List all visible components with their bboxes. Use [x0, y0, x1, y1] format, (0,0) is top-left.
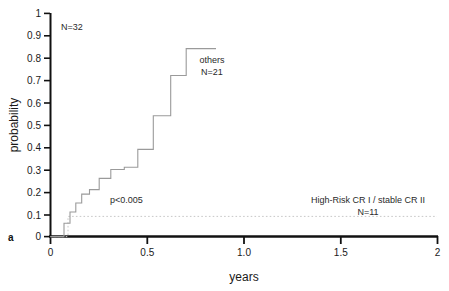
- y-axis-tick-labels: 1 0.9 0.8 0.7 0.6 0.5 0.4 0.3 0.2 0.1 0: [27, 8, 41, 242]
- y-tick-label-0.6: 0.6: [27, 98, 41, 109]
- figure-panel-a: 1 0.9 0.8 0.7 0.6 0.5 0.4 0.3 0.2 0.1 0 …: [0, 0, 449, 291]
- y-tick-label-0: 0: [35, 231, 41, 242]
- y-axis-ticks: [44, 13, 50, 236]
- y-tick-label-0.1: 0.1: [27, 210, 41, 221]
- x-tick-label-1.0: 1.0: [237, 247, 251, 258]
- x-tick-label-1.5: 1.5: [334, 247, 348, 258]
- x-tick-label-0.5: 0.5: [140, 247, 154, 258]
- y-tick-label-0.9: 0.9: [27, 30, 41, 41]
- series-n-others: N=21: [201, 67, 223, 77]
- x-tick-label-2: 2: [435, 247, 441, 258]
- annotation-total-n: N=32: [61, 22, 83, 32]
- series-high-risk-cr1-stable-cr2-line: [51, 216, 438, 236]
- y-tick-label-0.7: 0.7: [27, 75, 41, 86]
- y-tick-label-0.4: 0.4: [27, 142, 41, 153]
- y-tick-label-0.5: 0.5: [27, 120, 41, 131]
- y-axis-title: probability: [7, 98, 21, 153]
- y-tick-label-1: 1: [35, 8, 41, 19]
- series-label-others: others: [199, 55, 225, 65]
- panel-letter: a: [8, 232, 14, 243]
- y-tick-label-0.8: 0.8: [27, 53, 41, 64]
- x-axis-tick-labels: 0 0.5 1.0 1.5 2: [48, 247, 441, 258]
- y-tick-label-0.3: 0.3: [27, 165, 41, 176]
- annotation-p-value: p<0.005: [110, 195, 143, 205]
- y-tick-label-0.2: 0.2: [27, 187, 41, 198]
- series-others-line: [51, 49, 217, 237]
- x-tick-label-0: 0: [48, 247, 54, 258]
- series-label-high-risk-cr1-stable-cr2: High-Risk CR I / stable CR II: [311, 195, 425, 205]
- series-n-high-risk-cr1-stable-cr2: N=11: [357, 207, 378, 217]
- x-axis-title: years: [229, 270, 258, 284]
- kaplan-meier-chart: 1 0.9 0.8 0.7 0.6 0.5 0.4 0.3 0.2 0.1 0 …: [0, 0, 449, 291]
